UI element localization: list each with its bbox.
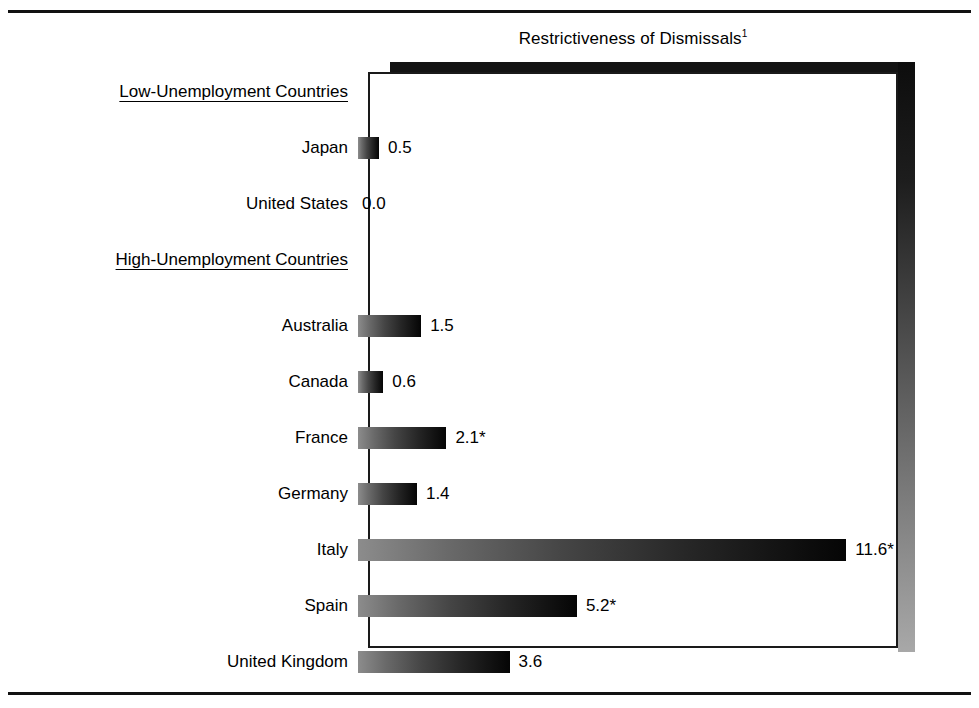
category-label: Germany (0, 484, 358, 504)
bar-zone: 5.2* (358, 586, 979, 626)
bar-value-label: 0.6 (392, 372, 416, 392)
bar (358, 315, 421, 337)
title-footnote-marker: 1 (742, 28, 748, 39)
category-label: Australia (0, 316, 358, 336)
bar-value-label: 1.5 (430, 316, 454, 336)
category-label: Canada (0, 372, 358, 392)
bar-value-label: 3.6 (519, 652, 543, 672)
bar-row: Italy11.6* (0, 530, 979, 570)
bar-row: Spain5.2* (0, 586, 979, 626)
top-divider (8, 10, 971, 13)
bar-value-label: 5.2* (586, 596, 616, 616)
category-label: Japan (0, 138, 358, 158)
category-label: Italy (0, 540, 358, 560)
category-label: United States (0, 194, 358, 214)
bar (358, 483, 417, 505)
chart-title-text: Restrictiveness of Dismissals (519, 29, 742, 48)
category-label: Spain (0, 596, 358, 616)
bar-rows: Low-Unemployment CountriesJapan0.5United… (0, 72, 979, 648)
bar-zone: 1.4 (358, 474, 979, 514)
group-header-row: Low-Unemployment Countries (0, 72, 979, 112)
bar-value-label: 2.1* (455, 428, 485, 448)
bar-zone: 0.6 (358, 362, 979, 402)
group-header-label: High-Unemployment Countries (0, 250, 358, 270)
bar-value-label: 11.6* (855, 540, 893, 560)
bar-value-label: 0.0 (362, 194, 386, 214)
bar-zone: 11.6* (358, 530, 979, 570)
bar-zone: 0.5 (358, 128, 979, 168)
bar-row: France2.1* (0, 418, 979, 458)
group-header-row: High-Unemployment Countries (0, 240, 979, 280)
group-header-label: Low-Unemployment Countries (0, 82, 358, 102)
bar (358, 427, 446, 449)
bar (358, 371, 383, 393)
page-title: Restrictiveness of Dismissals1 (368, 29, 898, 49)
bar-zone: 0.0 (358, 184, 979, 224)
bar-row: United Kingdom3.6 (0, 642, 979, 682)
bar-value-label: 1.4 (426, 484, 450, 504)
bar-row: Canada0.6 (0, 362, 979, 402)
bottom-divider (8, 692, 971, 695)
bar-zone: 2.1* (358, 418, 979, 458)
bar-value-label: 0.5 (388, 138, 412, 158)
bar (358, 137, 379, 159)
bar-row: Japan0.5 (0, 128, 979, 168)
bar-zone: 3.6 (358, 642, 979, 682)
bar-row: Australia1.5 (0, 306, 979, 346)
bar (358, 539, 846, 561)
bar-row: United States0.0 (0, 184, 979, 224)
bar-zone: 1.5 (358, 306, 979, 346)
bar (358, 595, 577, 617)
category-label: France (0, 428, 358, 448)
bar (358, 651, 510, 673)
category-label: United Kingdom (0, 652, 358, 672)
bar-row: Germany1.4 (0, 474, 979, 514)
